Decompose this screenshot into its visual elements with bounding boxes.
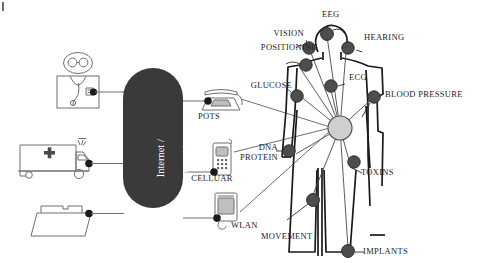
sensor-dot-dna-protein xyxy=(283,145,295,157)
pots-label: POTS xyxy=(190,112,228,122)
body-outline xyxy=(282,25,385,256)
sensor-dots xyxy=(283,28,380,258)
eeg-label: EEG xyxy=(322,10,339,20)
implants-label: IMPLANTS xyxy=(363,247,408,257)
cellular-label: CELLUAR xyxy=(184,174,240,184)
glucose-label: GLUCOSE xyxy=(246,81,292,91)
network-label-line1: Internet / xyxy=(155,139,166,177)
wlan-link-node xyxy=(213,214,221,222)
ambulance-icon xyxy=(18,139,89,179)
positioning-label: POSITIONING xyxy=(250,43,318,53)
ecg-label: ECG xyxy=(349,73,367,83)
vision-label: VISION xyxy=(258,29,304,39)
wlan-label: WLAN xyxy=(231,221,258,231)
ambulance-cross-icon xyxy=(44,147,55,158)
dna-protein-label-line2: PROTEIN xyxy=(240,152,278,162)
folder-icon xyxy=(31,206,91,236)
diagram-vector-layer xyxy=(0,0,483,272)
sensor-dot-blood-pressure xyxy=(368,91,380,103)
hearing-label: HEARING xyxy=(364,33,404,43)
sensor-dot-eeg xyxy=(321,28,334,41)
body-hub-node xyxy=(328,116,352,140)
doctor-icon xyxy=(57,53,99,109)
sensor-dot-positioning xyxy=(300,59,312,71)
toxins-label: TOXINS xyxy=(361,168,394,178)
sensor-dot-glucose xyxy=(291,90,303,102)
diagram-canvas: Internet / Wide Area Network POTS CELLUA… xyxy=(0,0,483,272)
dna-protein-label-line1: DNA xyxy=(259,142,278,152)
sensor-dot-hearing xyxy=(342,42,354,54)
network-label-line2: Wide Area Network xyxy=(181,116,192,200)
dna-protein-label: DNAPROTEIN xyxy=(236,143,278,162)
sensor-dot-toxins xyxy=(348,156,360,168)
sensor-dot-movement xyxy=(307,194,320,207)
blood-pressure-label: BLOOD PRESSURE xyxy=(385,90,463,100)
sensor-dot-implants xyxy=(342,245,355,258)
movement-label: MOVEMENT xyxy=(261,232,313,242)
sensor-dot-ecg xyxy=(325,80,337,92)
